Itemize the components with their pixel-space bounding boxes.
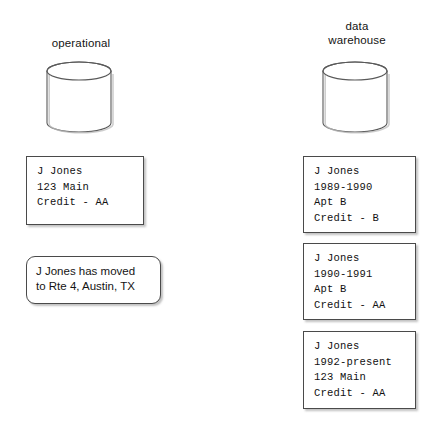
operational-record-box: J Jones 123 Main Credit - AA [26, 156, 144, 225]
warehouse-record-text: J Jones 1992-present 123 Main Credit - A… [314, 339, 392, 401]
operational-column-caption: operational [20, 37, 142, 51]
warehouse-record-box: J Jones 1989-1990 Apt B Credit - B [303, 156, 416, 233]
operational-change-message-text: J Jones has moved to Rte 4, Austin, TX [36, 264, 158, 294]
database-cylinder-icon [46, 61, 114, 133]
warehouse-record-box: J Jones 1992-present 123 Main Credit - A… [303, 331, 416, 409]
operational-record-text: J Jones 123 Main Credit - AA [37, 164, 109, 211]
warehouse-record-box: J Jones 1990-1991 Apt B Credit - AA [303, 243, 416, 320]
warehouse-record-text: J Jones 1989-1990 Apt B Credit - B [314, 164, 379, 226]
data-warehouse-column-caption: data warehouse [296, 20, 418, 47]
diagram-canvas: operational J Jones 123 Main Credit - AA… [0, 0, 440, 429]
operational-change-message-box: J Jones has moved to Rte 4, Austin, TX [26, 256, 161, 304]
database-cylinder-icon [322, 61, 390, 133]
warehouse-record-text: J Jones 1990-1991 Apt B Credit - AA [314, 251, 386, 313]
